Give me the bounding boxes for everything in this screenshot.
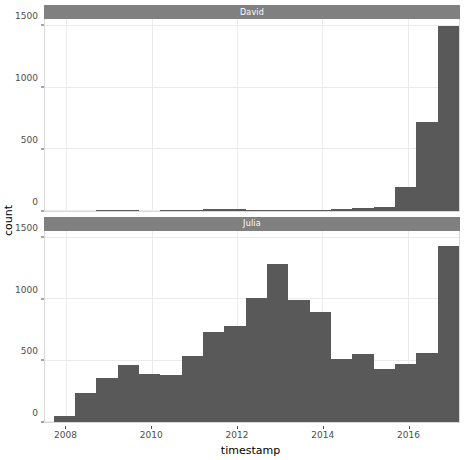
x-axis-ticks: 20082010201220142016 [44, 426, 460, 440]
facet-strip: Julia [44, 217, 460, 231]
histogram-bar [416, 353, 437, 422]
x-axis-tick-mark [237, 426, 238, 429]
y-axis-tick-label: 1000 [15, 73, 38, 83]
histogram-bar [459, 94, 460, 211]
histogram-bar [203, 332, 224, 422]
x-axis-tick-mark [151, 426, 152, 429]
histogram-bar [246, 298, 267, 422]
x-axis-tick-label: 2016 [397, 430, 420, 440]
y-axis-ticks: 050010001500 [0, 231, 44, 424]
facet-strip: David [44, 5, 460, 19]
facet-julia: Julia [44, 217, 460, 424]
facet-strip-label: Julia [243, 219, 261, 228]
histogram-bar [310, 312, 331, 422]
histogram-bar [75, 393, 96, 422]
y-axis-title-label: count [3, 204, 16, 235]
x-axis-title: timestamp [40, 444, 461, 457]
histogram-bar [288, 300, 309, 422]
x-axis-title-label: timestamp [221, 444, 280, 457]
histogram-bar [182, 210, 203, 211]
x-axis-tick-mark [323, 426, 324, 429]
histogram-bar [224, 209, 245, 210]
y-axis-tick-label: 0 [32, 197, 38, 207]
y-axis-tick-label: 500 [21, 135, 38, 145]
histogram-bar [246, 210, 267, 211]
histogram-bar [416, 122, 437, 210]
y-axis-tick-label: 1500 [15, 11, 38, 21]
histogram-bar [438, 246, 459, 422]
histogram-bar [395, 364, 416, 422]
y-axis-tick-label: 0 [32, 408, 38, 418]
histogram-bar [352, 354, 373, 422]
plot-panel [44, 19, 460, 212]
histogram-bar [438, 26, 459, 210]
y-axis-tick-label: 1500 [15, 223, 38, 233]
x-axis-tick-label: 2012 [226, 430, 249, 440]
histogram-bar [160, 375, 181, 422]
x-axis-tick-mark [65, 426, 66, 429]
histogram-bar [331, 359, 352, 422]
x-axis-tick-label: 2010 [140, 430, 163, 440]
histogram-bar [118, 210, 139, 211]
histogram-bar [54, 416, 75, 422]
histogram-bar [96, 378, 117, 422]
histogram-bar [182, 356, 203, 422]
histogram-figure: count 050010001500 050010001500 DavidJul… [0, 0, 465, 460]
bar-series [45, 231, 459, 423]
y-axis-tick-label: 1000 [15, 285, 38, 295]
plot-panel [44, 231, 460, 424]
histogram-bar [395, 187, 416, 211]
y-axis-ticks: 050010001500 [0, 19, 44, 212]
histogram-bar [374, 369, 395, 422]
histogram-bar [310, 210, 331, 211]
histogram-bar [139, 374, 160, 422]
histogram-bar [352, 208, 373, 211]
histogram-bar [96, 210, 117, 211]
y-axis-tick-label: 500 [21, 346, 38, 356]
histogram-bar [224, 326, 245, 422]
facet-panels: DavidJulia [44, 5, 460, 423]
facet-david: David [44, 5, 460, 212]
x-axis-tick-label: 2008 [54, 430, 77, 440]
histogram-bar [118, 365, 139, 422]
x-axis-tick-mark [409, 426, 410, 429]
x-axis-tick-label: 2014 [311, 430, 334, 440]
histogram-bar [374, 207, 395, 210]
histogram-bar [459, 284, 460, 422]
histogram-bar [267, 264, 288, 422]
y-axis-title: count [2, 0, 16, 440]
facet-strip-label: David [240, 8, 264, 17]
histogram-bar [203, 209, 224, 210]
bar-series [45, 19, 459, 211]
histogram-bar [331, 209, 352, 211]
